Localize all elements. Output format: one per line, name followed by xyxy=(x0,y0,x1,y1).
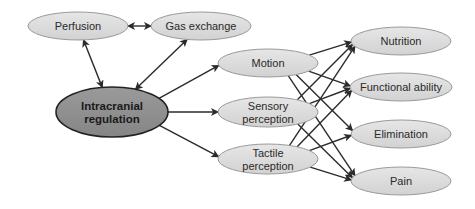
node-motion[interactable]: Motion xyxy=(218,49,318,77)
node-label: Motion xyxy=(251,57,284,69)
arrow-intracranial-regulation-to-tactile-perception xyxy=(159,125,218,156)
node-sensory-perception[interactable]: Sensory perception xyxy=(218,97,318,127)
arrow-gas-exchange-to-intracranial-regulation xyxy=(135,39,187,89)
node-label: Perfusion xyxy=(55,20,101,32)
node-label-line2: regulation xyxy=(84,113,140,125)
node-label: Pain xyxy=(390,175,412,187)
arrow-perfusion-to-intracranial-regulation xyxy=(84,40,103,87)
node-functional-ability[interactable]: Functional ability xyxy=(350,73,452,101)
arrow-motion-to-functional-ability xyxy=(309,71,350,86)
arrow-tactile-perception-to-pain xyxy=(310,167,351,180)
node-label-line2: perception xyxy=(242,113,293,125)
node-intracranial-regulation[interactable]: Intracranial regulation xyxy=(56,87,168,137)
node-label: Gas exchange xyxy=(166,20,237,32)
node-elimination[interactable]: Elimination xyxy=(351,120,451,148)
node-pain[interactable]: Pain xyxy=(351,167,451,195)
node-label: Nutrition xyxy=(381,35,422,47)
arrow-intracranial-regulation-to-motion xyxy=(159,65,219,98)
nodes-layer: Perfusion Gas exchange Intracranial regu… xyxy=(28,12,452,195)
concept-diagram: Perfusion Gas exchange Intracranial regu… xyxy=(0,0,475,209)
node-nutrition[interactable]: Nutrition xyxy=(351,27,451,55)
node-label-line2: perception xyxy=(242,160,293,172)
node-label-line1: Tactile xyxy=(252,147,283,159)
arrow-motion-to-nutrition xyxy=(309,42,351,55)
node-label: Functional ability xyxy=(360,81,442,93)
node-tactile-perception[interactable]: Tactile perception xyxy=(218,144,318,174)
node-label-line1: Intracranial xyxy=(81,100,143,112)
arrow-sensory-perception-to-functional-ability xyxy=(309,88,350,103)
node-perfusion[interactable]: Perfusion xyxy=(28,12,128,40)
node-label: Elimination xyxy=(374,128,428,140)
node-label-line1: Sensory xyxy=(248,100,289,112)
node-shape xyxy=(56,87,168,137)
node-gas-exchange[interactable]: Gas exchange xyxy=(151,12,251,40)
